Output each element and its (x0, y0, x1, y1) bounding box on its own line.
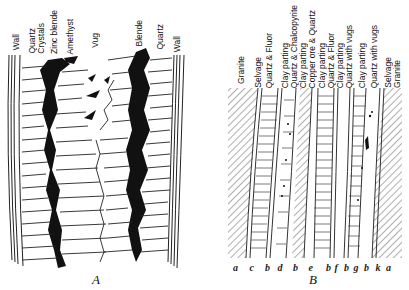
label-quartz-with-vugs-2: Quartz with vugs (370, 25, 379, 88)
label-granite-left: Granite (237, 56, 246, 84)
band-letter: b (293, 262, 306, 273)
label-selvage-left: Selvage (254, 57, 263, 88)
figure-b: Granite Selvage Quartz & Fluor Clay part… (0, 0, 409, 290)
band-letter: k (376, 262, 384, 273)
band-letter: g (354, 262, 362, 273)
band-letter: b (364, 262, 373, 273)
band-letter: b (344, 262, 351, 273)
label-quartz-fluor-1: Quartz & Fluor (265, 33, 274, 88)
band-letter: a (233, 262, 247, 273)
label-granite-right: Granite (393, 60, 402, 88)
band-letter: a (386, 262, 394, 273)
caption-b: B (309, 272, 317, 288)
label-copper-ore-quartz: Copper ore & Quartz (308, 10, 317, 88)
band-letter: b (265, 262, 275, 273)
band-letter: b (326, 262, 332, 273)
band-letter: c (250, 262, 263, 273)
band-letter: f (335, 262, 342, 273)
label-clay-parting-5: Clay parting (358, 43, 367, 88)
band-letter: d (278, 262, 291, 273)
label-quartz-with-vugs-1: Quartz with vugs (345, 25, 354, 88)
